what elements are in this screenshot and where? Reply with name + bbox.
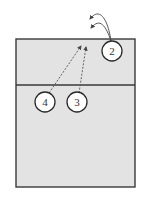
player-4: 4 <box>35 92 55 112</box>
court-diagram: 2 4 3 <box>0 0 143 201</box>
player-3: 3 <box>67 92 87 112</box>
player-label: 4 <box>42 96 48 108</box>
curved-arrow-upper <box>90 14 111 41</box>
player-label: 2 <box>109 45 115 57</box>
court <box>16 39 135 187</box>
player-2: 2 <box>102 41 122 61</box>
player-label: 3 <box>74 96 80 108</box>
